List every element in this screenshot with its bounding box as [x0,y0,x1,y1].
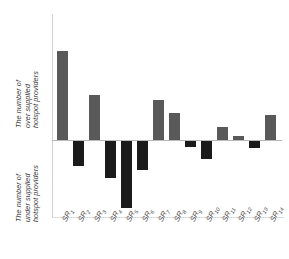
bar-sr4 [105,141,116,178]
bar-sr3 [89,95,100,140]
y-axis-label-over-supplied: The number of over supplied hotspot prov… [15,71,41,128]
y-axis-label-under-supplied: The number of under supplied hotspot pro… [15,165,41,222]
bar-sr14 [265,115,276,140]
bar-sr13 [249,141,260,148]
bar-sr12 [233,136,244,140]
plot-area [52,14,284,218]
bar-sr5 [121,141,132,208]
y-axis-label-over-line-3: hotspot providers [32,71,41,128]
chart-figure: The number of over supplied hotspot prov… [0,0,289,259]
bar-sr11 [217,127,228,140]
y-axis-label-under-line-3: hotspot providers [32,165,41,222]
bar-sr1 [57,51,68,140]
x-axis-tick-labels: SR1SR2SR3SR4SR5SR6SR7SR8SR9SR10SR11SR12S… [52,219,289,259]
bar-sr6 [137,141,148,170]
bar-sr7 [153,100,164,140]
bar-sr9 [185,141,196,147]
bar-sr2 [73,141,84,166]
bar-sr8 [169,113,180,140]
bar-series [53,14,284,218]
bar-sr10 [201,141,212,159]
